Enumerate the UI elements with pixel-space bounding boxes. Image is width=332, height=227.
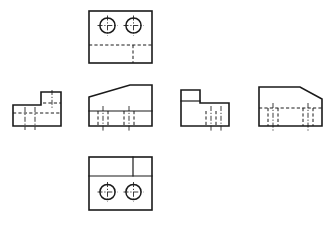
technical-drawing-sheet [0, 0, 332, 227]
right-side-view-outline [181, 90, 229, 126]
right-side-view [181, 90, 229, 131]
front-view-outline [89, 85, 152, 126]
front-view [89, 85, 152, 131]
top-view-outline [89, 11, 152, 63]
left-side-view-outline [13, 92, 61, 126]
top-view [89, 11, 152, 63]
orthographic-projection-canvas [0, 0, 332, 227]
bottom-view [89, 157, 152, 210]
left-side-view [13, 90, 61, 130]
rear-view [259, 87, 322, 131]
bottom-view-outline [89, 157, 152, 210]
